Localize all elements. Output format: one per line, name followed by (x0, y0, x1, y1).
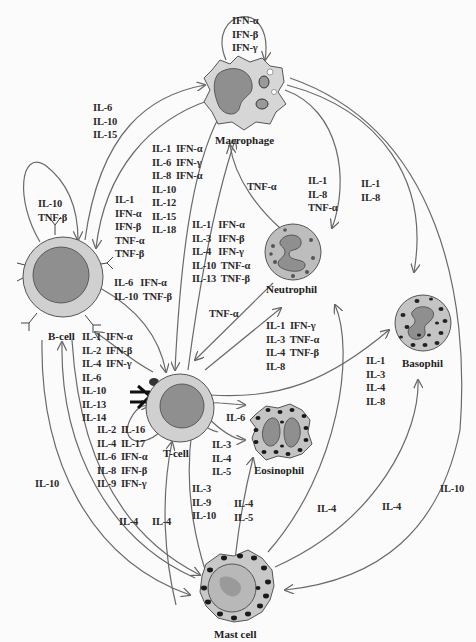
basophil-cell-icon (393, 293, 453, 353)
label-macrophage-to-bcell: IL-1 IFN-α IFN-β TNF-α TNF-β (115, 193, 144, 261)
mast-cell-icon (196, 548, 278, 626)
label-bcell-self: IL-10 TNF-β (38, 197, 67, 224)
label-macrophage-to-neutrophil: IL-1 IL-8 TNF-α (308, 174, 337, 215)
label-macrophage-to-basophil: IL-1 IL-8 (361, 177, 380, 204)
label-mast-to-eosinophil: IL-4 IL-5 (234, 497, 253, 524)
macrophage-cell-icon (200, 52, 290, 132)
macrophage-label: Macrophage (215, 134, 274, 146)
label-tcell-to-eosinophil: IL-3 IL-4 IL-5 (212, 438, 231, 479)
arrow-neutrophil-to-tcell (195, 283, 273, 360)
label-neutrophil-to-tcell: TNF-α (209, 307, 238, 321)
label-bcell-to-mast: IL-10 (35, 477, 59, 491)
label-mast-to-tcell: IL-4 (152, 515, 171, 529)
label-tcell-to-neutrophil: IL-1 IFN-γ IL-3 TNF-α IL-4 TNF-β IL-8 (266, 319, 319, 373)
label-macrophage-self: IFN-α IFN-β IFN-γ (232, 14, 258, 55)
b-cell-label: B-cell (48, 330, 75, 342)
label-tcell-to-bcell: IL-1 IFN-α IL-2 IFN-β IL-4 IFN-γ IL-6 IL… (82, 330, 132, 425)
eosinophil-cell-icon (248, 402, 314, 462)
neutrophil-label: Neutrophil (266, 283, 317, 295)
eosinophil-label: Eosinophil (254, 464, 304, 476)
label-tcell-to-macrophage: IL-1 IFN-α IL-3 IFN-β IL-4 IFN-γ IL-10 T… (192, 218, 250, 286)
label-tcell-to-mast: IL-3 IL-9 IL-10 (192, 482, 216, 523)
b-cell-icon (15, 215, 115, 335)
label-mast-to-bcell: IL-4 (119, 515, 138, 529)
label-tcell-to-basophil: IL-1 IL-3 IL-4 IL-8 (366, 354, 385, 408)
cytokine-diagram: Macrophage B-cell T-cell Neutrophil (0, 0, 476, 642)
basophil-label: Basophil (402, 357, 443, 369)
label-tcell-self: IL-2 IL-16 IL-4 IL-17 IL-6 IFN-α IL-8 IF… (97, 423, 147, 491)
mast-cell-label: Mast cell (214, 628, 256, 640)
label-macrophage-to-mast: IL-10 (440, 482, 464, 496)
label-eosinophil-self: IL-6 (226, 411, 245, 425)
label-bcell-to-macrophage: IL-6 IL-10 IL-15 (93, 101, 117, 142)
t-cell-label: T-cell (163, 447, 189, 459)
label-bcell-to-tcell: IL-6 IFN-α IL-10 TNF-β (114, 276, 172, 303)
label-mast-to-basophil: IL-4 (382, 500, 401, 514)
label-mast-to-neutrophil: IL-4 (317, 502, 336, 516)
neutrophil-cell-icon (263, 222, 323, 282)
label-neutrophil-to-macrophage: TNF-α (247, 180, 276, 194)
